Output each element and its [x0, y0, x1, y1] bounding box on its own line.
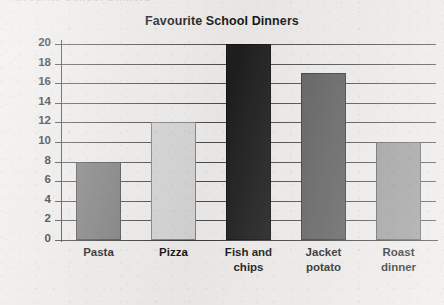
bar[interactable]: [376, 142, 421, 240]
y-axis-tick-label: 20: [9, 36, 51, 48]
x-axis-category-label: Fish andchips: [211, 245, 286, 275]
bar[interactable]: [151, 122, 196, 240]
y-axis-tick-label: 0: [9, 232, 51, 244]
y-axis-tick-label: 12: [9, 114, 51, 126]
y-axis-tick-label: 14: [9, 95, 51, 107]
y-axis-tick-label: 18: [9, 56, 51, 68]
x-axis-category-label: Pasta: [61, 245, 136, 260]
y-axis-tick-label: 10: [9, 134, 51, 146]
chart-title: Favourite School Dinners: [0, 14, 444, 28]
plot-area: 02468101214161820: [61, 44, 436, 240]
y-axis-tick-label: 2: [9, 212, 51, 224]
x-axis-category-label: Jacketpotato: [286, 245, 361, 275]
bar[interactable]: [226, 44, 271, 240]
bar[interactable]: [301, 73, 346, 240]
y-axis-tick-label: 6: [9, 173, 51, 185]
x-axis-category-label: Pizza: [136, 245, 211, 260]
bar-chart-figure: Favourite School Dinners Number of child…: [0, 0, 444, 305]
x-axis-line: [55, 240, 438, 241]
x-axis-category-label: Roastdinner: [361, 245, 436, 275]
y-axis-tick-label: 8: [9, 154, 51, 166]
y-axis-tick-label: 4: [9, 193, 51, 205]
bar[interactable]: [76, 162, 121, 240]
y-axis-line: [61, 40, 62, 242]
y-axis-tick-label: 16: [9, 75, 51, 87]
